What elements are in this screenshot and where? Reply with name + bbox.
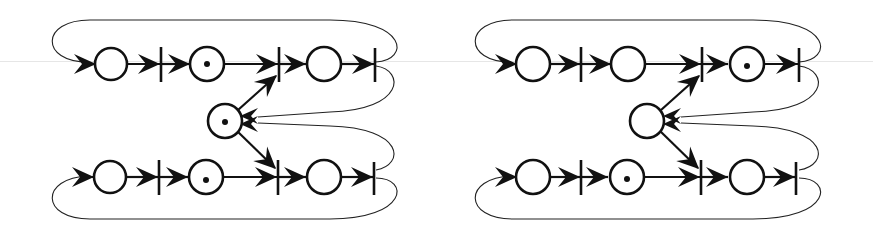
place-p2: [611, 47, 645, 81]
place-p1: [516, 47, 550, 81]
petri-net-diagram: [0, 0, 873, 234]
place-middle: [630, 104, 664, 138]
token-icon: [744, 63, 750, 69]
arrowhead-icon: [72, 167, 94, 187]
place-p6: [307, 160, 341, 194]
left-petri-net: [52, 20, 397, 219]
token-icon: [204, 61, 210, 67]
place-p3: [307, 47, 341, 81]
arrowhead-icon: [495, 54, 517, 74]
token-icon: [203, 177, 209, 183]
place-p1: [95, 48, 127, 80]
place-p6: [730, 160, 764, 194]
right-petri-net: [475, 20, 820, 219]
place-p4: [516, 160, 550, 194]
arrowhead-icon: [495, 167, 517, 187]
place-p4: [94, 161, 126, 193]
token-icon: [624, 176, 630, 182]
arrowhead-icon: [74, 54, 96, 74]
token-icon: [222, 119, 228, 125]
